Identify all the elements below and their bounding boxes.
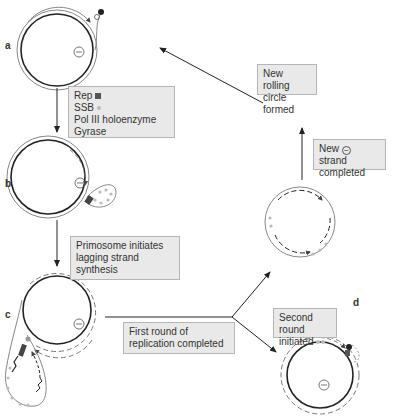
first-round-label-box: First round of replication completed: [123, 322, 235, 354]
rolling-circle-diagram: [0, 0, 397, 419]
ssb-label: SSB: [74, 102, 94, 113]
primosome-line-3: synthesis: [76, 264, 174, 276]
panel-b-circle: [7, 136, 116, 218]
primosome-line-2: lagging strand: [76, 252, 174, 264]
new-rolling-line-2: circle formed: [263, 92, 311, 116]
panel-label-c: c: [5, 309, 11, 320]
new-strand-word-strand: strand: [319, 155, 347, 166]
pol3-label: Pol III holoenzyme: [74, 114, 169, 126]
rep-label: Rep: [74, 90, 92, 101]
rep-square-icon: [95, 93, 101, 99]
primosome-label-box: Primosome initiates lagging strand synth…: [70, 236, 180, 280]
panel-c-circle: [5, 274, 95, 407]
second-round-label-box: Second round initiated: [273, 308, 337, 338]
panel-a-circle: [17, 7, 104, 90]
panel-label-a: a: [5, 40, 11, 51]
arrow-fork-down: [232, 317, 276, 352]
gyrase-label: Gyrase: [74, 126, 169, 138]
new-rolling-circle-label-box: New rolling circle formed: [257, 64, 317, 95]
arrow-fork-up: [232, 272, 270, 317]
first-round-line-1: First round of: [129, 326, 229, 338]
new-strand-label-box: New − strand completed: [313, 139, 386, 170]
ssb-dot-icon: [316, 340, 320, 344]
panel-label-b: b: [5, 178, 11, 189]
panel-minus-strand-circle: [265, 187, 335, 257]
ssb-dot-icon: [97, 106, 101, 110]
enzymes-label-box: Rep SSB Pol III holoenzyme Gyrase: [68, 86, 175, 138]
new-strand-line-2: completed: [319, 167, 380, 179]
new-strand-word-new: New: [319, 143, 339, 154]
first-round-line-2: replication completed: [129, 338, 229, 350]
arrow-back-to-a: [160, 48, 263, 103]
primosome-line-1: Primosome initiates: [76, 240, 174, 252]
new-rolling-line-1: New rolling: [263, 68, 311, 92]
ssb-dot-icon: [321, 340, 325, 344]
minus-strand-icon: −: [342, 146, 351, 155]
panel-label-d: d: [353, 297, 359, 308]
second-round-line-1: Second round: [279, 312, 331, 336]
second-round-line-2: initiated: [279, 336, 313, 347]
